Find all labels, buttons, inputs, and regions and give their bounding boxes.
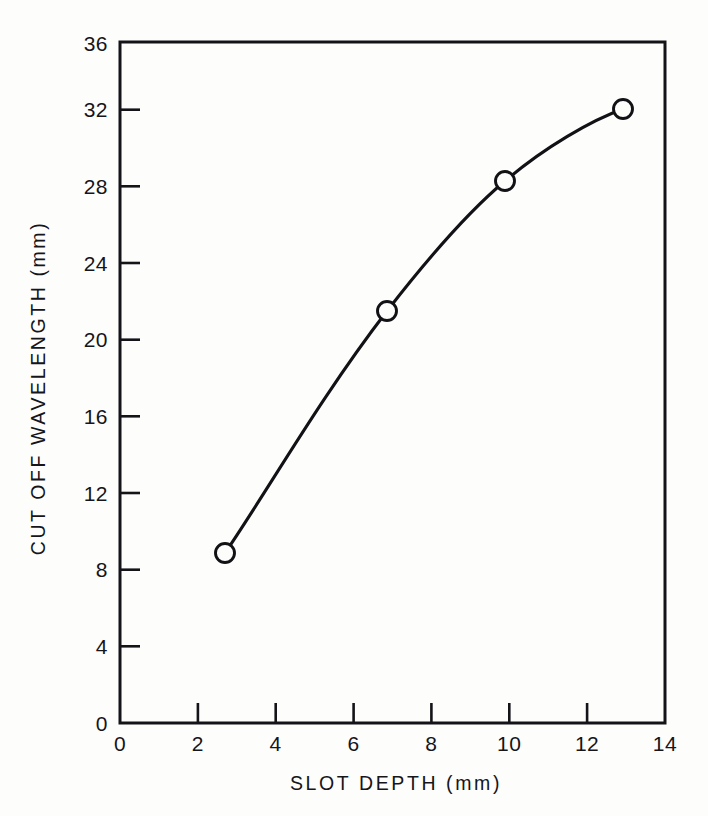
data-point-marker — [378, 302, 397, 321]
y-tick-label-4: 4 — [96, 635, 108, 658]
x-tick-label-10: 10 — [497, 732, 521, 755]
x-tick-label-2: 2 — [192, 732, 204, 755]
x-tick-label-12: 12 — [575, 732, 599, 755]
x-tick-label-14: 14 — [653, 732, 677, 755]
y-axis-title: CUT OFF WAVELENGTH (mm) — [27, 221, 49, 556]
figure-page: 0 4 8 12 16 20 24 28 32 36 0 2 4 6 8 — [0, 0, 708, 816]
x-axis-tick-labels: 0 2 4 6 8 10 12 14 — [114, 732, 677, 755]
y-tick-label-24: 24 — [84, 252, 108, 275]
data-series — [216, 100, 633, 563]
y-tick-label-20: 20 — [84, 328, 108, 351]
data-point-marker — [216, 544, 235, 563]
frame-border — [120, 42, 665, 723]
y-tick-label-12: 12 — [84, 482, 108, 505]
y-axis-tick-labels: 0 4 8 12 16 20 24 28 32 36 — [84, 32, 108, 735]
plot-frame — [120, 42, 665, 723]
series-curve — [225, 109, 623, 553]
chart-figure: 0 4 8 12 16 20 24 28 32 36 0 2 4 6 8 — [0, 0, 708, 816]
x-tick-label-8: 8 — [425, 732, 437, 755]
x-axis-ticks — [198, 703, 587, 723]
x-tick-label-0: 0 — [114, 732, 126, 755]
x-axis-title: SLOT DEPTH (mm) — [290, 772, 502, 794]
x-tick-label-6: 6 — [348, 732, 360, 755]
y-tick-label-32: 32 — [84, 98, 108, 121]
y-axis-ticks — [120, 110, 140, 647]
x-tick-label-4: 4 — [270, 732, 282, 755]
y-tick-label-36: 36 — [84, 32, 108, 55]
y-tick-label-0: 0 — [96, 712, 108, 735]
y-tick-label-16: 16 — [84, 405, 108, 428]
data-point-marker — [496, 172, 515, 191]
y-tick-label-28: 28 — [84, 175, 108, 198]
data-point-marker — [614, 100, 633, 119]
y-tick-label-8: 8 — [96, 558, 108, 581]
